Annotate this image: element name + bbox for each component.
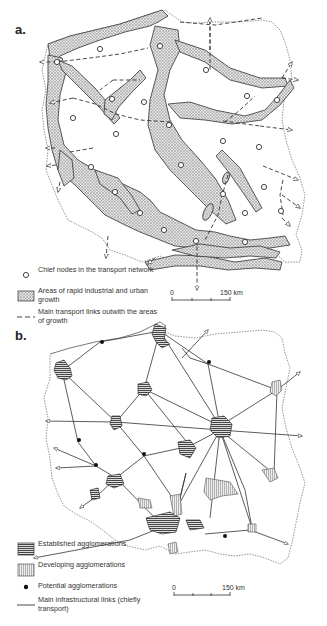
scale-label-a: 0 150 km [170,289,250,299]
solid-line-icon [14,596,38,613]
legend-item-growth-areas: Areas of rapid industrial and urban grow… [14,287,158,304]
filled-dot-icon [14,582,38,592]
legend-item-chief-nodes: Chief nodes in the transport network [14,266,158,283]
legend-item-established: Established agglomerations [14,540,158,557]
open-circle-icon [14,266,38,283]
scale-label-b: 0 150 km [172,584,252,594]
legend-item-potential: Potential agglomerations [14,582,158,592]
horizontal-hatch-icon [14,540,38,557]
stippled-area-icon [14,287,38,304]
legend-item-developing: Developing agglomerations [14,561,158,578]
map-panel-a: a. [0,0,327,318]
map-panel-b: b. [0,318,327,626]
coastline [50,322,166,354]
legend-b: Established agglomerations Developing ag… [14,540,158,617]
legend-item-links: Main infrastructural links (chiefly tran… [14,596,158,613]
vertical-hatch-icon [14,561,38,578]
growth-areas [46,10,294,270]
